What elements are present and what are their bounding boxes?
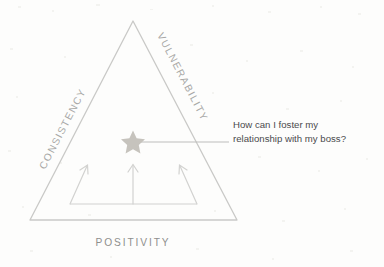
- center-arrow: [128, 165, 138, 205]
- framework-triangle-diagram: CONSISTENCY VULNERABILITY POSITIVITY How…: [0, 0, 384, 267]
- star-icon: [121, 131, 145, 154]
- right-arrow: [179, 165, 197, 204]
- left-arrow: [70, 165, 88, 204]
- annotation-line-1: How can I foster my: [233, 118, 383, 132]
- base-label: POSITIVITY: [95, 237, 170, 248]
- annotation-line-2: relationship with my boss?: [233, 132, 383, 146]
- annotation-callout: How can I foster my relationship with my…: [233, 118, 383, 146]
- right-edge-label: VULNERABILITY: [155, 31, 210, 123]
